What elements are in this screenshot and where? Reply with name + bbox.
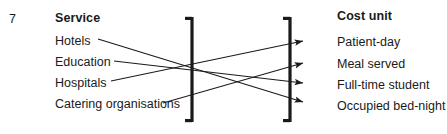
right-bracket <box>283 17 290 122</box>
figure-canvas: 7 Service Cost unit Hotels Education Hos… <box>0 0 447 134</box>
connection-line-1 <box>114 61 303 83</box>
bracket-marks <box>185 17 290 122</box>
connection-diagram <box>0 0 447 134</box>
connection-lines <box>98 39 303 103</box>
connection-line-2 <box>111 41 303 81</box>
